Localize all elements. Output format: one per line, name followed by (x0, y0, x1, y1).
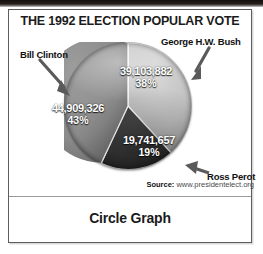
arrow-icon-clinton (37, 58, 75, 98)
figure-caption: Circle Graph (9, 210, 251, 226)
chart-area: THE 1992 ELECTION POPULAR VOTE (9, 10, 251, 197)
arrow-icon-bush (187, 46, 215, 82)
section-divider (9, 196, 251, 197)
pie-svg (64, 42, 192, 170)
pie-chart (64, 42, 192, 170)
figure-page: THE 1992 ELECTION POPULAR VOTE (0, 0, 263, 254)
source-line: Source: www.presidentelect.org (146, 180, 254, 189)
source-url: www.presidentelect.org (176, 180, 254, 189)
source-label: Source: (146, 180, 174, 189)
chart-title: THE 1992 ELECTION POPULAR VOTE (9, 14, 251, 28)
top-crop-band (0, 0, 263, 7)
arrow-icon-perot (184, 160, 212, 182)
